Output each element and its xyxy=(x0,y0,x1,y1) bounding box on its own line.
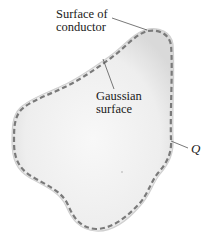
center-dot xyxy=(121,171,122,172)
gaussian-surface-label: Gaussian surface xyxy=(96,90,142,116)
charge-label: Q xyxy=(191,142,200,155)
gaussian-label-line2: surface xyxy=(96,103,142,116)
conductor-body xyxy=(12,29,174,231)
diagram-canvas xyxy=(0,0,211,240)
conductor-surface-label: Surface of conductor xyxy=(56,8,108,34)
conductor-leader-line xyxy=(112,18,147,30)
conductor-gaussian-figure: Surface of conductor Gaussian surface Q xyxy=(0,0,211,240)
conductor-label-line2: conductor xyxy=(56,21,108,34)
